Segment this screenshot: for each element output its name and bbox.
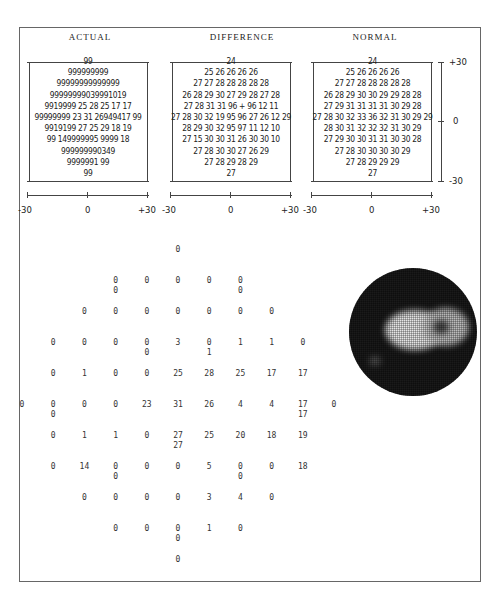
grid-cell: 0 1: [194, 338, 224, 358]
grid-cell: 0 0: [38, 400, 68, 420]
grayscale-dither: [349, 268, 477, 396]
grid-cell: 0: [163, 462, 193, 472]
grid-cell: 0: [69, 493, 99, 503]
grid-cell: 18: [288, 462, 318, 472]
grid-cell: 0: [257, 462, 287, 472]
grid-cell: 0 0: [225, 276, 255, 296]
grid-cell: 5: [194, 462, 224, 472]
grid-cell: 0: [69, 338, 99, 348]
grid-cell: 0: [101, 307, 131, 317]
grid-cell: 0: [132, 276, 162, 286]
grid-cell: 4: [225, 493, 255, 503]
grayscale-field-map: [349, 268, 477, 396]
grid-cell: 0: [194, 276, 224, 286]
grid-cell: 17 17: [288, 400, 318, 420]
grid-cell: 0: [163, 493, 193, 503]
grid-cell: 27 27: [163, 431, 193, 451]
grid-cell: 0: [132, 493, 162, 503]
grid-cell: 0 0: [101, 276, 131, 296]
grid-cell: 0: [132, 524, 162, 534]
grid-cell: 28: [194, 369, 224, 379]
grid-cell: 0: [163, 307, 193, 317]
grid-cell: 0: [101, 338, 131, 348]
grid-cell: 0: [69, 400, 99, 410]
grid-cell: 0: [101, 493, 131, 503]
grid-cell: 0 0: [225, 462, 255, 482]
grid-cell: 17: [257, 369, 287, 379]
grid-cell: 0: [38, 369, 68, 379]
grid-cell: 0: [132, 369, 162, 379]
grid-cell: 0 0: [101, 462, 131, 482]
grid-cell: 0: [69, 307, 99, 317]
grid-cell: 1: [69, 431, 99, 441]
grid-cell: 0: [225, 307, 255, 317]
grid-cell: 0: [225, 524, 255, 534]
grid-cell: 17: [288, 369, 318, 379]
grid-cell: 0 0: [132, 338, 162, 358]
grid-cell: 23: [132, 400, 162, 410]
grid-cell: 20: [225, 431, 255, 441]
grid-cell: 25: [163, 369, 193, 379]
grid-cell: 0: [132, 431, 162, 441]
grid-cell: 4: [257, 400, 287, 410]
grid-cell: 18: [257, 431, 287, 441]
grid-cell: 0: [288, 338, 318, 348]
grid-cell: 26: [194, 400, 224, 410]
grid-cell: 0: [257, 493, 287, 503]
grid-cell: 0: [101, 400, 131, 410]
grid-cell: 0: [194, 307, 224, 317]
grid-cell: 0: [7, 400, 37, 410]
grid-cell: 1: [194, 524, 224, 534]
grid-cell: 31: [163, 400, 193, 410]
grid-cell: 0 0: [163, 524, 193, 544]
grid-cell: 0: [38, 338, 68, 348]
grid-cell: 1: [225, 338, 255, 348]
grid-cell: 0: [38, 462, 68, 472]
grid-cell: 1: [257, 338, 287, 348]
grid-cell: 0: [163, 276, 193, 286]
grid-cell: 1: [69, 369, 99, 379]
grid-cell: 0: [132, 462, 162, 472]
grid-cell: 3: [194, 493, 224, 503]
grid-cell: 0: [132, 307, 162, 317]
grid-cell: 19: [288, 431, 318, 441]
grid-cell: 0: [101, 369, 131, 379]
grid-cell: 3: [163, 338, 193, 348]
grid-cell: 0: [163, 245, 193, 255]
grid-cell: 0: [101, 524, 131, 534]
grid-cell: 25: [225, 369, 255, 379]
grid-cell: 14: [69, 462, 99, 472]
grid-cell: 1: [101, 431, 131, 441]
grid-cell: 0: [163, 555, 193, 565]
grid-cell: 0: [257, 307, 287, 317]
grid-cell: 0: [319, 400, 349, 410]
grid-cell: 25: [194, 431, 224, 441]
grid-cell: 4: [225, 400, 255, 410]
grid-cell: 0: [38, 431, 68, 441]
